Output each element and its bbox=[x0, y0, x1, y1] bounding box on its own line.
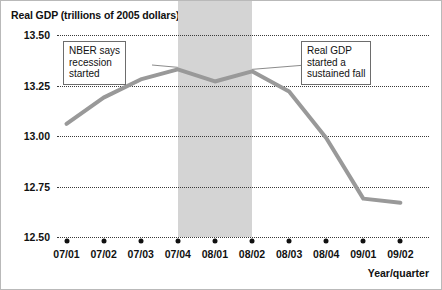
gdp-line bbox=[67, 69, 401, 202]
x-axis-tick-dot bbox=[64, 239, 69, 244]
x-axis-tick-dot bbox=[324, 239, 329, 244]
chart-figure: Real GDP (trillions of 2005 dollars) 13.… bbox=[0, 0, 442, 290]
x-axis-tick-dot bbox=[212, 239, 217, 244]
y-axis-tick-label: 12.50 bbox=[24, 231, 50, 243]
x-axis-tick-dot bbox=[361, 239, 366, 244]
nber-recession-note: NBER says recession started bbox=[63, 41, 126, 85]
x-axis-tick-label: 08/01 bbox=[202, 248, 228, 260]
sustained-fall-note: Real GDP started a sustained fall bbox=[301, 41, 371, 85]
x-axis-tick-dot bbox=[138, 239, 143, 244]
x-axis-tick-label: 07/02 bbox=[90, 248, 116, 260]
x-axis-tick-label: 09/01 bbox=[350, 248, 376, 260]
chart-title: Real GDP (trillions of 2005 dollars) bbox=[11, 9, 179, 21]
y-axis-tick-label: 13.50 bbox=[24, 29, 50, 41]
x-axis-title: Year/quarter bbox=[368, 267, 429, 279]
y-axis-tick-label: 13.00 bbox=[24, 130, 50, 142]
x-axis-tick-label: 08/03 bbox=[276, 248, 302, 260]
x-axis-tick-dot bbox=[175, 239, 180, 244]
x-axis-tick-dot bbox=[250, 239, 255, 244]
x-axis-tick-label: 08/02 bbox=[239, 248, 265, 260]
x-axis-tick-dot bbox=[101, 239, 106, 244]
x-axis: 07/0107/0207/0307/0408/0108/0208/0308/04… bbox=[57, 237, 429, 267]
x-axis-tick-dot bbox=[287, 239, 292, 244]
y-axis-tick-label: 12.75 bbox=[24, 181, 50, 193]
x-axis-tick-dot bbox=[398, 239, 403, 244]
x-axis-tick-label: 07/04 bbox=[165, 248, 191, 260]
x-axis-tick-label: 07/03 bbox=[128, 248, 154, 260]
x-axis-tick-label: 09/02 bbox=[387, 248, 413, 260]
x-axis-tick-label: 07/01 bbox=[53, 248, 79, 260]
x-axis-tick-label: 08/04 bbox=[313, 248, 339, 260]
y-axis-tick-label: 13.25 bbox=[24, 80, 50, 92]
